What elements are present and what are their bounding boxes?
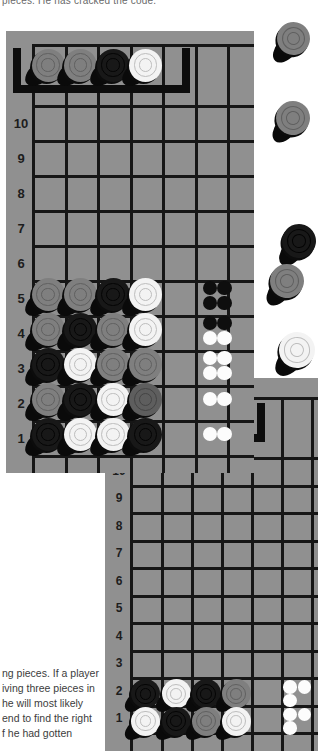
piece-ring (139, 58, 152, 71)
grid-line-horizontal (130, 622, 318, 625)
grid-line-vertical (227, 44, 230, 473)
body-text-line: ng pieces. If a player (2, 666, 99, 681)
row-label-9: 9 (17, 150, 24, 165)
piece-face (129, 49, 162, 82)
piece-ring (106, 58, 119, 71)
row-label-7: 7 (17, 220, 24, 235)
grid-line-vertical (195, 44, 198, 473)
piece-face (129, 278, 162, 311)
margin-piece-gray (267, 261, 307, 301)
score-peg-white (203, 366, 217, 380)
row-label-1: 1 (116, 711, 123, 725)
score-peg-black (203, 281, 217, 295)
score-peg-white (203, 392, 217, 406)
grid-line-horizontal (130, 567, 318, 570)
piece-ring (41, 288, 54, 301)
guess-piece-gray (222, 679, 251, 708)
score-peg-white (283, 708, 297, 722)
row-label-5: 5 (116, 601, 123, 615)
score-peg-white (203, 427, 217, 441)
body-text-line: iving three pieces in (2, 681, 99, 696)
piece-ring (41, 58, 54, 71)
body-text-line: he will most likely (2, 696, 99, 711)
score-peg-white (203, 351, 217, 365)
code-piece-white (129, 49, 162, 82)
guess-piece-white (129, 278, 162, 311)
piece-ring (41, 428, 54, 441)
board-upper: 10987654321 (6, 31, 254, 473)
score-peg-white (283, 694, 297, 708)
row-label-7: 7 (116, 546, 123, 560)
grid-line-horizontal (130, 485, 318, 488)
guess-piece-black (129, 418, 162, 451)
guess-piece-white (129, 313, 162, 346)
row-label-4: 4 (116, 629, 123, 643)
piece-face (129, 383, 162, 416)
score-peg-black (217, 316, 231, 330)
score-peg-black (217, 281, 231, 295)
score-peg-black (217, 296, 231, 310)
piece-face (222, 707, 251, 736)
score-peg-white (298, 708, 312, 722)
piece-ring (170, 688, 182, 700)
grid-line-vertical (162, 44, 165, 473)
piece-ring (106, 358, 119, 371)
code-bracket (182, 48, 190, 93)
piece-face (222, 679, 251, 708)
row-label-6: 6 (17, 255, 24, 270)
margin-piece-black (278, 220, 318, 261)
margin-piece-white (276, 329, 318, 371)
row-label-2: 2 (17, 395, 24, 410)
score-peg-white (298, 680, 312, 694)
piece-ring (106, 323, 119, 336)
margin-piece-gray (274, 19, 312, 57)
row-label-5: 5 (17, 290, 24, 305)
grid-line-horizontal (130, 650, 318, 653)
body-text-line: end to find the right (2, 711, 99, 726)
body-text-block: ng pieces. If a player iving three piece… (2, 666, 99, 741)
score-peg-white (217, 366, 231, 380)
piece-ring (170, 715, 182, 727)
row-label-8: 8 (17, 185, 24, 200)
row-label-2: 2 (116, 684, 123, 698)
score-peg-white (203, 331, 217, 345)
score-peg-black (203, 316, 217, 330)
score-peg-black (203, 296, 217, 310)
row-label-1: 1 (17, 430, 24, 445)
score-peg-white (217, 331, 231, 345)
grid-line-horizontal (130, 512, 318, 515)
score-peg-white (217, 351, 231, 365)
body-text-line: f he had gotten (2, 726, 99, 741)
piece-face (129, 313, 162, 346)
piece-ring (74, 58, 87, 71)
piece-ring (41, 358, 54, 371)
top-caption-text: pieces. He has cracked the code. (2, 0, 242, 6)
piece-face (129, 348, 162, 381)
book-page: pieces. He has cracked the code. 1098765… (0, 0, 318, 751)
score-peg-white (283, 680, 297, 694)
code-bracket (13, 85, 190, 93)
piece-face (129, 418, 162, 451)
row-label-6: 6 (116, 574, 123, 588)
piece-ring (41, 323, 54, 336)
margin-piece-gray (273, 98, 313, 138)
grid-line-horizontal (130, 540, 318, 543)
grid-line-horizontal (130, 595, 318, 598)
score-peg-white (217, 392, 231, 406)
piece-ring (200, 688, 212, 700)
guess-piece-gray (129, 348, 162, 381)
piece-ring (106, 393, 119, 406)
row-label-3: 3 (17, 360, 24, 375)
row-label-8: 8 (116, 519, 123, 533)
score-peg-white (217, 427, 231, 441)
guess-piece-darkgray (129, 383, 162, 416)
score-peg-white (283, 721, 297, 735)
piece-ring (140, 688, 152, 700)
piece-ring (106, 288, 119, 301)
piece-ring (230, 688, 242, 700)
piece-ring (200, 715, 212, 727)
grid-line-vertical (311, 397, 314, 751)
piece-ring (41, 393, 54, 406)
piece-ring (106, 428, 119, 441)
row-label-3: 3 (116, 656, 123, 670)
